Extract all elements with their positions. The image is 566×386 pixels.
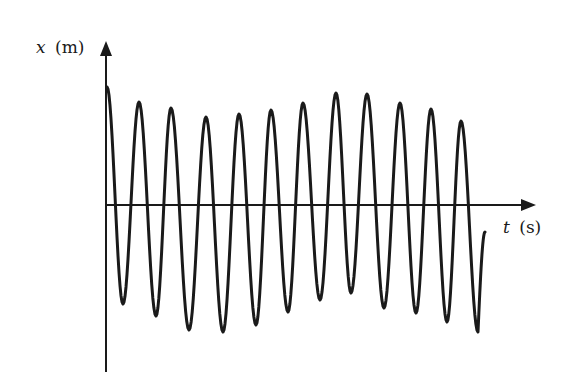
displacement-curve [107, 87, 485, 332]
x-axis [106, 199, 536, 211]
oscillation-chart: x (m) t (s) [0, 0, 566, 386]
x-axis-label: t (s) [503, 217, 541, 237]
y-axis-label: x (m) [36, 37, 84, 57]
y-axis-arrow-icon [100, 41, 112, 56]
y-axis [100, 41, 112, 372]
x-axis-arrow-icon [521, 199, 536, 211]
